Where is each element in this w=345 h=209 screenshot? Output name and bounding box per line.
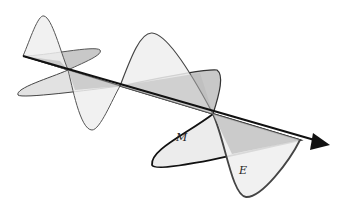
electric-wave [23,16,300,197]
label-e: E [238,164,247,177]
arrowhead-icon [310,133,330,150]
label-m: M [175,131,188,144]
em-wave-diagram: M E [0,0,345,209]
